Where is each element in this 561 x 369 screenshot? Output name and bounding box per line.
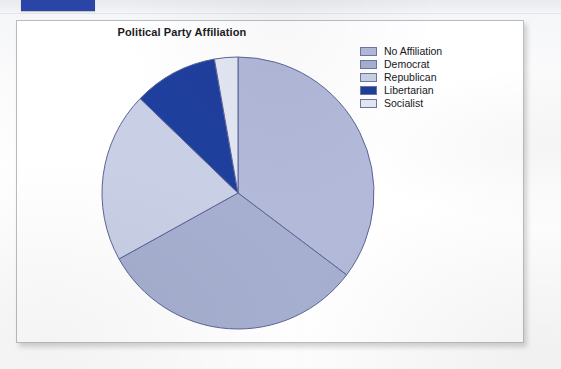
top-strip	[0, 0, 561, 14]
legend-item-label: Libertarian	[384, 84, 434, 97]
legend-swatch-icon	[360, 99, 377, 108]
legend-swatch-icon	[360, 73, 377, 82]
pie-slice-group	[102, 57, 374, 329]
legend-item-label: Republican	[384, 71, 437, 84]
legend-swatch-icon	[360, 47, 377, 56]
legend-swatch-icon	[360, 86, 377, 95]
legend-swatch-icon	[360, 60, 377, 69]
top-bar-accent-block	[21, 0, 95, 11]
legend-item: Libertarian	[360, 84, 510, 97]
legend-item: No Affiliation	[360, 45, 510, 58]
top-strip-divider	[0, 13, 561, 14]
legend-item-label: Socialist	[384, 97, 423, 110]
scanned-page: Political Party Affiliation No Affiliati…	[0, 0, 561, 369]
legend-item-label: Democrat	[384, 58, 430, 71]
legend-item: Democrat	[360, 58, 510, 71]
chart-panel: Political Party Affiliation No Affiliati…	[16, 20, 524, 343]
legend-item-label: No Affiliation	[384, 45, 442, 58]
chart-legend: No AffiliationDemocratRepublicanLibertar…	[360, 45, 510, 110]
legend-item: Socialist	[360, 97, 510, 110]
legend-item: Republican	[360, 71, 510, 84]
